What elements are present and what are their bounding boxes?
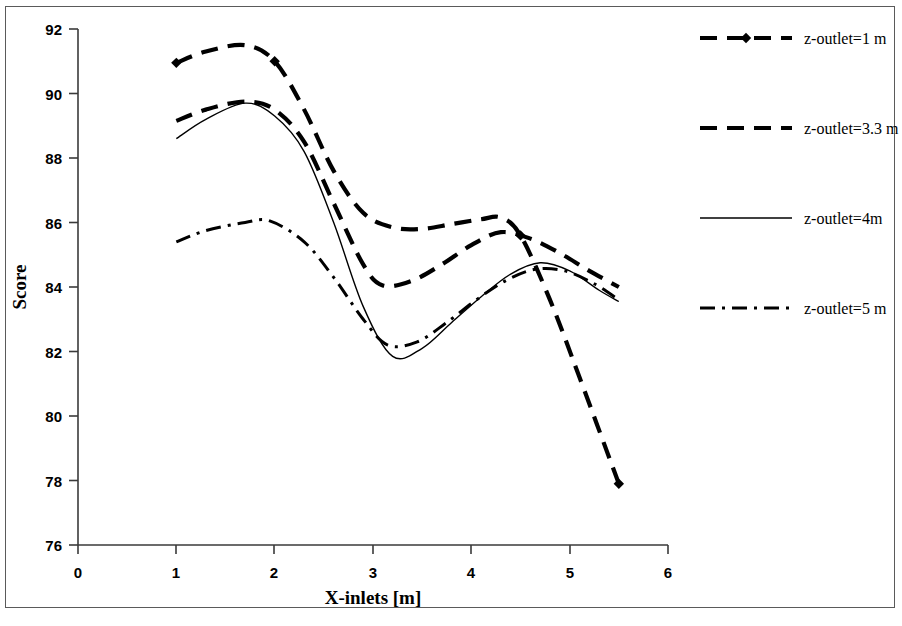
- y-tick-label: 76: [45, 537, 62, 554]
- y-tick-label: 90: [45, 86, 62, 103]
- x-tick-label: 3: [369, 564, 377, 581]
- x-tick-label: 0: [74, 564, 82, 581]
- legend-label: z-outlet=4m: [804, 210, 883, 227]
- y-tick-label: 82: [45, 344, 62, 361]
- legend-label: z-outlet=3.3 m: [804, 120, 899, 137]
- legend-item-2: z-outlet=3.3 m: [700, 120, 899, 137]
- data-series-layer: [171, 45, 624, 489]
- y-tick-label: 86: [45, 215, 62, 232]
- x-tick-label: 2: [270, 564, 278, 581]
- series-line: [176, 102, 619, 287]
- line-chart: 92 90 88 86 84 82 80 78 76 0 1 2 3 4 5 6: [0, 0, 902, 626]
- x-axis-title: X-inlets [m]: [325, 587, 422, 608]
- legend-item-1: z-outlet=1 m: [700, 30, 887, 47]
- x-tick-label: 5: [566, 564, 574, 581]
- figure-page: 92 90 88 86 84 82 80 78 76 0 1 2 3 4 5 6: [0, 0, 902, 626]
- y-axis-title: Score: [9, 264, 30, 309]
- legend-marker-diamond: [741, 33, 751, 43]
- series-1: [171, 45, 624, 489]
- y-axis-ticks: [69, 29, 78, 545]
- axis-lines: [78, 29, 668, 545]
- series-3: [176, 103, 619, 359]
- y-tick-label: 84: [45, 279, 62, 296]
- y-tick-label: 78: [45, 473, 62, 490]
- x-axis-ticks: [78, 545, 668, 554]
- y-tick-label: 80: [45, 408, 62, 425]
- series-line: [176, 103, 619, 359]
- chart-legend: z-outlet=1 mz-outlet=3.3 mz-outlet=4mz-o…: [700, 30, 899, 317]
- legend-label: z-outlet=1 m: [804, 30, 887, 47]
- legend-label: z-outlet=5 m: [804, 300, 887, 317]
- x-axis-tick-labels: 0 1 2 3 4 5 6: [74, 564, 672, 581]
- legend-item-4: z-outlet=5 m: [700, 300, 887, 317]
- series-2: [176, 102, 619, 287]
- x-tick-label: 6: [664, 564, 672, 581]
- y-axis-tick-labels: 92 90 88 86 84 82 80 78 76: [45, 21, 62, 554]
- y-tick-label: 88: [45, 150, 62, 167]
- x-tick-label: 1: [172, 564, 180, 581]
- y-tick-label: 92: [45, 21, 62, 38]
- data-point-marker: [614, 479, 624, 489]
- chart-figure: 92 90 88 86 84 82 80 78 76 0 1 2 3 4 5 6: [0, 0, 902, 626]
- legend-item-3: z-outlet=4m: [700, 210, 883, 227]
- x-tick-label: 4: [467, 564, 476, 581]
